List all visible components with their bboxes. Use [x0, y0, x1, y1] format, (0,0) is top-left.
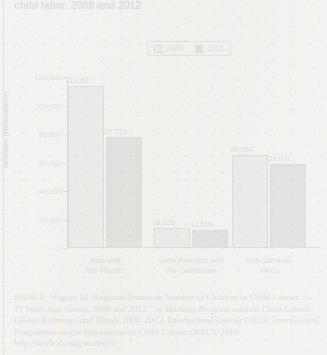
bar-group: 113,60777,723 — [68, 77, 163, 248]
y-axis-tick-label: 60,000 — [39, 158, 62, 167]
y-axis-tick-label: 120,000 — [35, 73, 62, 82]
y-axis-tick-label: 0 — [58, 244, 62, 253]
x-axis-category-label: Sub-SaharanAfrica — [214, 256, 324, 276]
y-axis-tick-label: 80,000 — [39, 130, 62, 139]
bar-2012-1 — [192, 230, 228, 248]
bar-value-label: 59,031 — [268, 154, 291, 163]
y-axis-tick-label: 20,000 — [39, 215, 62, 224]
bar-value-label: 65,064 — [230, 145, 253, 154]
legend-swatch-2012 — [195, 45, 203, 53]
source-line-3b: , — [163, 315, 165, 325]
bar-value-label: 77,723 — [104, 127, 127, 136]
legend-label-2012: 2012 — [207, 44, 223, 53]
bar-value-label: 113,607 — [66, 76, 92, 85]
x-axis-category-line: Africa — [214, 266, 324, 276]
legend-item-2012: 2012 — [195, 44, 223, 53]
source-line-2b: Marking Progress — [164, 304, 230, 314]
chart-legend: 2008 2012 — [147, 41, 231, 56]
page-left-rule — [3, 0, 4, 355]
bar-2008-0 — [68, 86, 104, 248]
bar-group: 65,06459,031 — [232, 77, 327, 248]
bar-chart: Number (thousands) 120,000100,00080,0006… — [0, 60, 327, 292]
plot-area: 113,60777,72314,12512,50565,06459,031 — [68, 77, 319, 248]
bar-2012-0 — [106, 137, 142, 248]
legend-item-2008: 2008 — [154, 44, 182, 53]
bar-2008-2 — [232, 155, 268, 248]
source-note: SOURCE: “Figure 12. Regional Trends in N… — [14, 292, 320, 350]
page-title: child labor, 2008 and 2012 — [14, 0, 141, 11]
y-axis-tick-mark — [63, 248, 67, 249]
bar-value-label: 14,125 — [152, 218, 175, 227]
bar-2008-1 — [154, 228, 190, 248]
source-line-1: : “Figure 12. Regional Trends in Number … — [44, 292, 270, 302]
y-axis-tick-label: 100,000 — [35, 101, 62, 110]
y-axis-tick-label: 40,000 — [39, 187, 62, 196]
bar-2012-2 — [270, 164, 306, 248]
legend-label-2008: 2008 — [166, 44, 182, 53]
x-axis-category-line: Sub-Saharan — [214, 256, 324, 266]
bar-value-label: 12,505 — [190, 220, 213, 229]
source-prefix: SOURCE — [14, 293, 44, 302]
legend-swatch-2008 — [154, 45, 162, 53]
